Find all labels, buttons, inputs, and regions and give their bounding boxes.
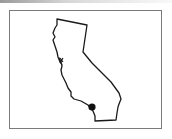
california-map	[0, 0, 172, 139]
california-outline	[53, 19, 121, 121]
location-marker[interactable]	[88, 103, 95, 110]
